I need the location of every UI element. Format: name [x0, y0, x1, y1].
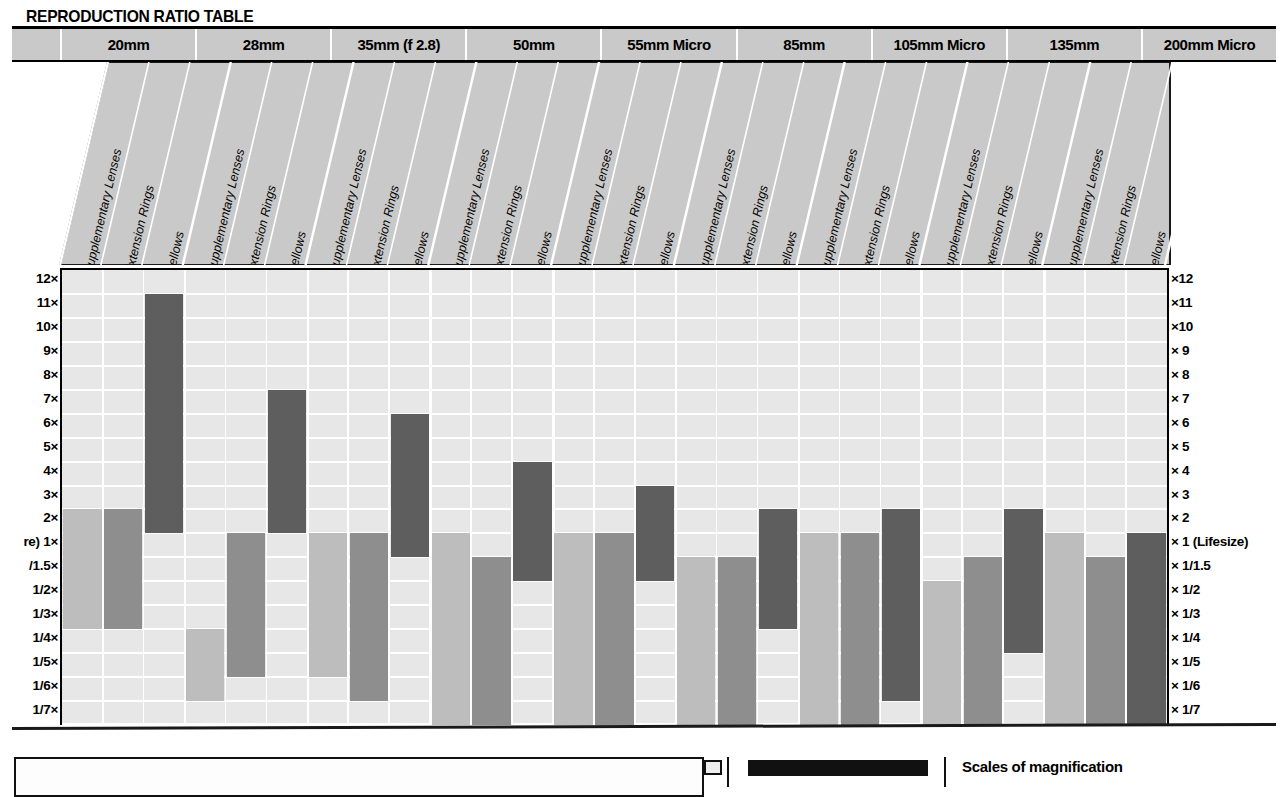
footer-small-swatch — [704, 760, 722, 775]
bar-50mm-extension-rings — [472, 557, 510, 725]
y-tick-right-16: × 1/5 — [1171, 654, 1200, 669]
grid-vline — [1002, 270, 1004, 723]
bar-135mm-bellows — [1004, 509, 1042, 653]
y-tick-right-12: × 1/1.5 — [1171, 558, 1211, 573]
y-tick-left-6: 6× — [43, 415, 58, 430]
bar-85mm-extension-rings — [718, 557, 756, 725]
y-tick-right-9: × 3 — [1171, 487, 1189, 502]
bar-35mm-f-2-8--supplementary-lenses — [309, 533, 347, 677]
bar-20mm-extension-rings — [104, 509, 142, 629]
bar-85mm-supplementary-lenses — [677, 557, 715, 725]
lens-header-20mm[interactable]: 20mm — [62, 29, 197, 60]
footer-dark-swatch — [748, 760, 928, 776]
footer-panel-left — [14, 757, 704, 797]
bar-20mm-bellows — [145, 294, 183, 533]
page-title: REPRODUCTION RATIO TABLE — [26, 7, 253, 27]
y-tick-right-3: × 9 — [1171, 343, 1189, 358]
bar-105mm-micro-bellows — [882, 509, 920, 701]
bar-55mm-micro-extension-rings — [595, 533, 633, 725]
grid-vline — [757, 270, 759, 723]
grid-hline — [62, 317, 1167, 319]
y-tick-right-5: × 7 — [1171, 391, 1189, 406]
y-tick-right-15: × 1/4 — [1171, 630, 1200, 645]
bar-200mm-micro-bellows — [1127, 533, 1165, 725]
accessory-label-band: Supplementary LensesExtension RingsBello… — [0, 62, 1282, 265]
y-tick-right-18: × 1/7 — [1171, 702, 1200, 717]
bar-135mm-supplementary-lenses — [923, 581, 961, 725]
y-axis-left: 12×11×10×9×8×7×6×5×4×3×2×re) 1×/1.5×1/2×… — [0, 268, 60, 725]
lens-header-200mm-micro[interactable]: 200mm Micro — [1143, 29, 1276, 60]
grid-hline — [62, 485, 1167, 487]
grid-hline — [62, 437, 1167, 439]
bar-200mm-micro-extension-rings — [1086, 557, 1124, 725]
y-tick-right-14: × 1/3 — [1171, 606, 1200, 621]
grid-hline — [62, 389, 1167, 391]
y-axis-right: ×12×11×10× 9× 8× 7× 6× 5× 4× 3× 2× 1 (Li… — [1169, 268, 1282, 725]
y-tick-right-0: ×12 — [1171, 271, 1193, 286]
grid-hline — [62, 293, 1167, 295]
y-tick-left-8: 4× — [43, 463, 58, 478]
y-tick-right-6: × 6 — [1171, 415, 1189, 430]
lens-header-50mm[interactable]: 50mm — [467, 29, 602, 60]
bar-135mm-extension-rings — [964, 557, 1002, 725]
y-tick-left-11: re) 1× — [23, 534, 58, 549]
bar-105mm-micro-extension-rings — [841, 533, 879, 725]
y-tick-left-14: 1/3× — [33, 606, 58, 621]
y-tick-right-4: × 8 — [1171, 367, 1189, 382]
grid-hline — [62, 365, 1167, 367]
footer-divider-2 — [944, 757, 946, 787]
y-tick-left-13: 1/2× — [33, 582, 58, 597]
y-tick-left-3: 9× — [43, 343, 58, 358]
y-tick-left-5: 7× — [43, 391, 58, 406]
grid-vline — [102, 270, 104, 723]
bar-105mm-micro-supplementary-lenses — [800, 533, 838, 725]
plot-bottom-rule — [12, 723, 1276, 730]
bar-85mm-bellows — [759, 509, 797, 629]
y-tick-right-1: ×11 — [1171, 295, 1192, 310]
y-tick-left-9: 3× — [43, 487, 58, 502]
y-tick-left-10: 2× — [43, 510, 58, 525]
bar-28mm-bellows — [268, 390, 306, 534]
lens-header-85mm[interactable]: 85mm — [738, 29, 873, 60]
y-tick-left-12: /1.5× — [29, 558, 58, 573]
lens-header-28mm[interactable]: 28mm — [197, 29, 332, 60]
grid-hline — [62, 508, 1167, 510]
bar-55mm-micro-supplementary-lenses — [554, 533, 592, 725]
lens-header-35mm-f-2-8-[interactable]: 35mm (f 2.8) — [332, 29, 467, 60]
y-tick-left-7: 5× — [43, 439, 58, 454]
bar-50mm-supplementary-lenses — [432, 533, 470, 725]
bar-28mm-supplementary-lenses — [186, 629, 224, 701]
bar-20mm-supplementary-lenses — [63, 509, 101, 629]
bar-200mm-micro-supplementary-lenses — [1045, 533, 1083, 725]
footer-divider-1 — [727, 757, 729, 787]
lens-header-blank-cell — [12, 29, 62, 60]
y-tick-right-11: × 1 (Lifesize) — [1171, 534, 1248, 549]
grid-hline — [62, 341, 1167, 343]
bar-35mm-f-2-8--extension-rings — [350, 533, 388, 701]
bar-28mm-extension-rings — [227, 533, 265, 677]
lens-header-row: 20mm28mm35mm (f 2.8)50mm55mm Micro85mm10… — [12, 29, 1276, 62]
y-tick-right-8: × 4 — [1171, 463, 1189, 478]
y-tick-right-17: × 1/6 — [1171, 678, 1200, 693]
y-tick-left-0: 12× — [36, 271, 58, 286]
lens-header-135mm[interactable]: 135mm — [1008, 29, 1143, 60]
y-tick-left-18: 1/7× — [33, 702, 58, 717]
y-tick-left-15: 1/4× — [33, 630, 58, 645]
y-tick-left-16: 1/5× — [33, 654, 58, 669]
y-tick-right-10: × 2 — [1171, 510, 1189, 525]
chart-plot-area — [62, 268, 1167, 723]
scales-of-magnification-label: Scales of magnification — [962, 758, 1123, 775]
bar-55mm-micro-bellows — [636, 486, 674, 582]
y-tick-right-13: × 1/2 — [1171, 582, 1200, 597]
y-tick-left-17: 1/6× — [33, 678, 58, 693]
y-tick-left-2: 10× — [36, 319, 58, 334]
y-tick-left-4: 8× — [43, 367, 58, 382]
y-tick-right-2: ×10 — [1171, 319, 1193, 334]
lens-header-105mm-micro[interactable]: 105mm Micro — [873, 29, 1008, 60]
bar-50mm-bellows — [513, 462, 551, 582]
lens-header-55mm-micro[interactable]: 55mm Micro — [602, 29, 737, 60]
y-tick-right-7: × 5 — [1171, 439, 1189, 454]
y-tick-left-1: 11× — [37, 295, 58, 310]
grid-hline — [62, 413, 1167, 415]
grid-hline — [62, 461, 1167, 463]
